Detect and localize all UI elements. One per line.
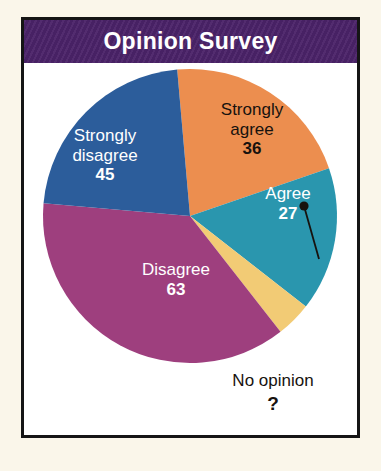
pie-slices-group bbox=[43, 69, 337, 363]
page-title: Opinion Survey bbox=[103, 28, 277, 55]
pie-slice-strongly-disagree bbox=[44, 70, 190, 216]
callout-point-marker bbox=[299, 201, 308, 210]
chart-header: Opinion Survey bbox=[24, 20, 357, 63]
pie-chart-plot-area: Strongly agree 36 Agree 27 Strongly disa… bbox=[24, 63, 357, 438]
pie-chart-graphic bbox=[24, 63, 357, 438]
chart-card: Opinion Survey Strongly agree 36 Agree 2… bbox=[21, 17, 360, 438]
